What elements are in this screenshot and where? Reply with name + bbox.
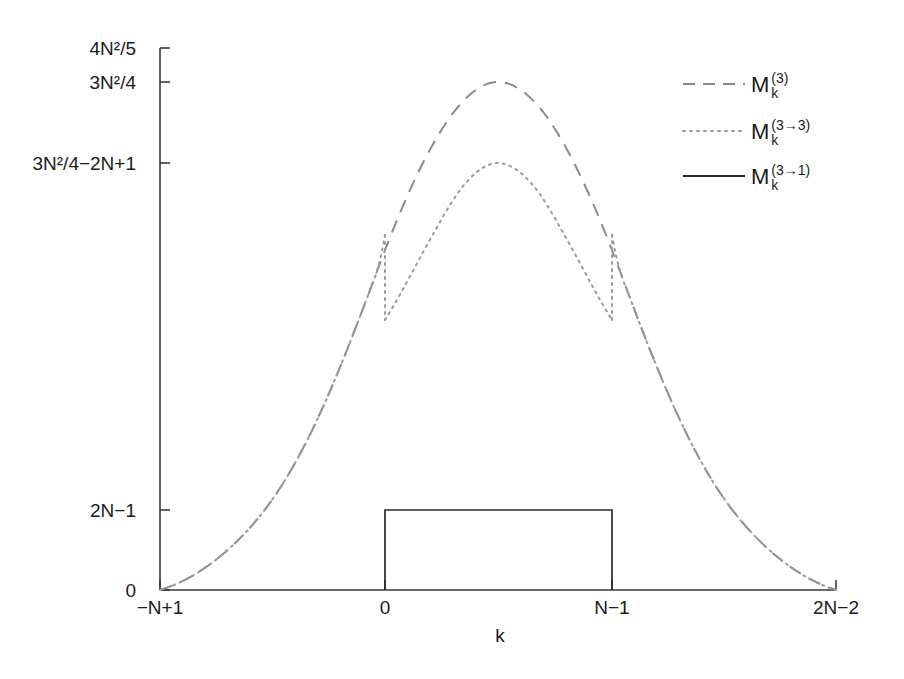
legend-mk33-superscript: (3→3)	[771, 117, 810, 133]
xtick-label-minus-n-plus-1: −N+1	[137, 598, 183, 617]
x-axis-ticks	[160, 580, 836, 590]
legend-mk3-subscript: k	[771, 85, 778, 101]
ytick-label-4n2-5: 4N²/5	[90, 39, 136, 58]
legend-entry-mk3: M (3) k	[683, 72, 863, 98]
legend-mk31-superscript: (3→1)	[771, 162, 810, 178]
plot-canvas	[0, 0, 904, 679]
ytick-label-3n2-4: 3N²/4	[90, 73, 136, 92]
legend-mk3-superscript: (3)	[771, 70, 788, 86]
x-axis-title: k	[495, 625, 505, 647]
legend-entry-mk33: M (3→3) k	[683, 119, 863, 145]
legend-entry-mk31: M (3→1) k	[683, 164, 863, 190]
y-axis-ticks	[160, 48, 170, 590]
ytick-label-3n2-4-2n-1: 3N²/4−2N+1	[32, 154, 136, 173]
series-mk31-rect	[385, 510, 612, 590]
legend-label-mk31: M (3→1) k	[751, 164, 771, 190]
ytick-label-zero: 0	[125, 581, 136, 600]
legend-label-mk33: M (3→3) k	[751, 119, 771, 145]
legend-mk31-base: M	[751, 164, 769, 189]
legend-mk33-subscript: k	[771, 132, 778, 148]
series-mk33-curve	[160, 163, 836, 590]
legend-label-mk3: M (3) k	[751, 72, 771, 98]
xtick-label-2n-minus-2: 2N−2	[813, 598, 859, 617]
xtick-label-n-minus-1: N−1	[594, 598, 629, 617]
chart-figure: 4N²/5 3N²/4 3N²/4−2N+1 2N−1 0 −N+1 0 N−1…	[0, 0, 904, 679]
legend-mk33-base: M	[751, 119, 769, 144]
xtick-label-zero: 0	[380, 598, 391, 617]
legend-mk31-subscript: k	[771, 177, 778, 193]
legend-mk3-base: M	[751, 72, 769, 97]
ytick-label-2n-1: 2N−1	[90, 501, 136, 520]
